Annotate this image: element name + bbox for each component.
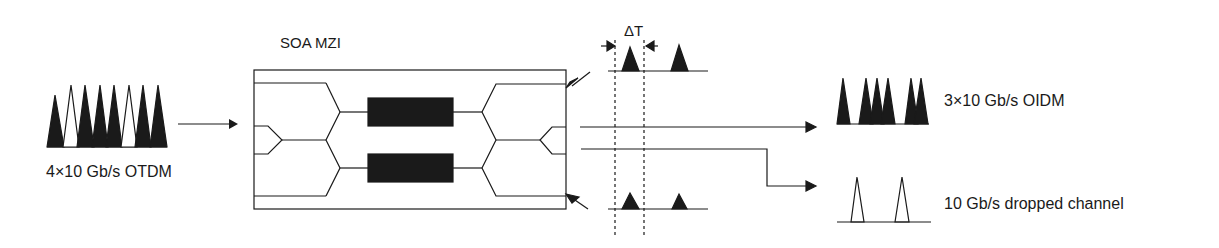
soa-mzi-device <box>254 70 566 209</box>
soa-upper <box>368 98 453 126</box>
device-title: SOA MZI <box>280 34 341 51</box>
control-pulses-bottom <box>608 193 708 209</box>
soa-lower <box>368 154 453 182</box>
oidm-pulse-train <box>837 78 929 124</box>
dropped-pulse-train <box>837 177 931 222</box>
input-pulse-train <box>47 85 167 147</box>
input-label: 4×10 Gb/s OTDM <box>46 163 172 181</box>
delta-t-label: ΔT <box>624 22 643 39</box>
dropped-label: 10 Gb/s dropped channel <box>944 195 1124 213</box>
oidm-label: 3×10 Gb/s OIDM <box>944 92 1065 110</box>
control-pulses-top <box>608 45 708 71</box>
input-arrow <box>178 119 238 129</box>
